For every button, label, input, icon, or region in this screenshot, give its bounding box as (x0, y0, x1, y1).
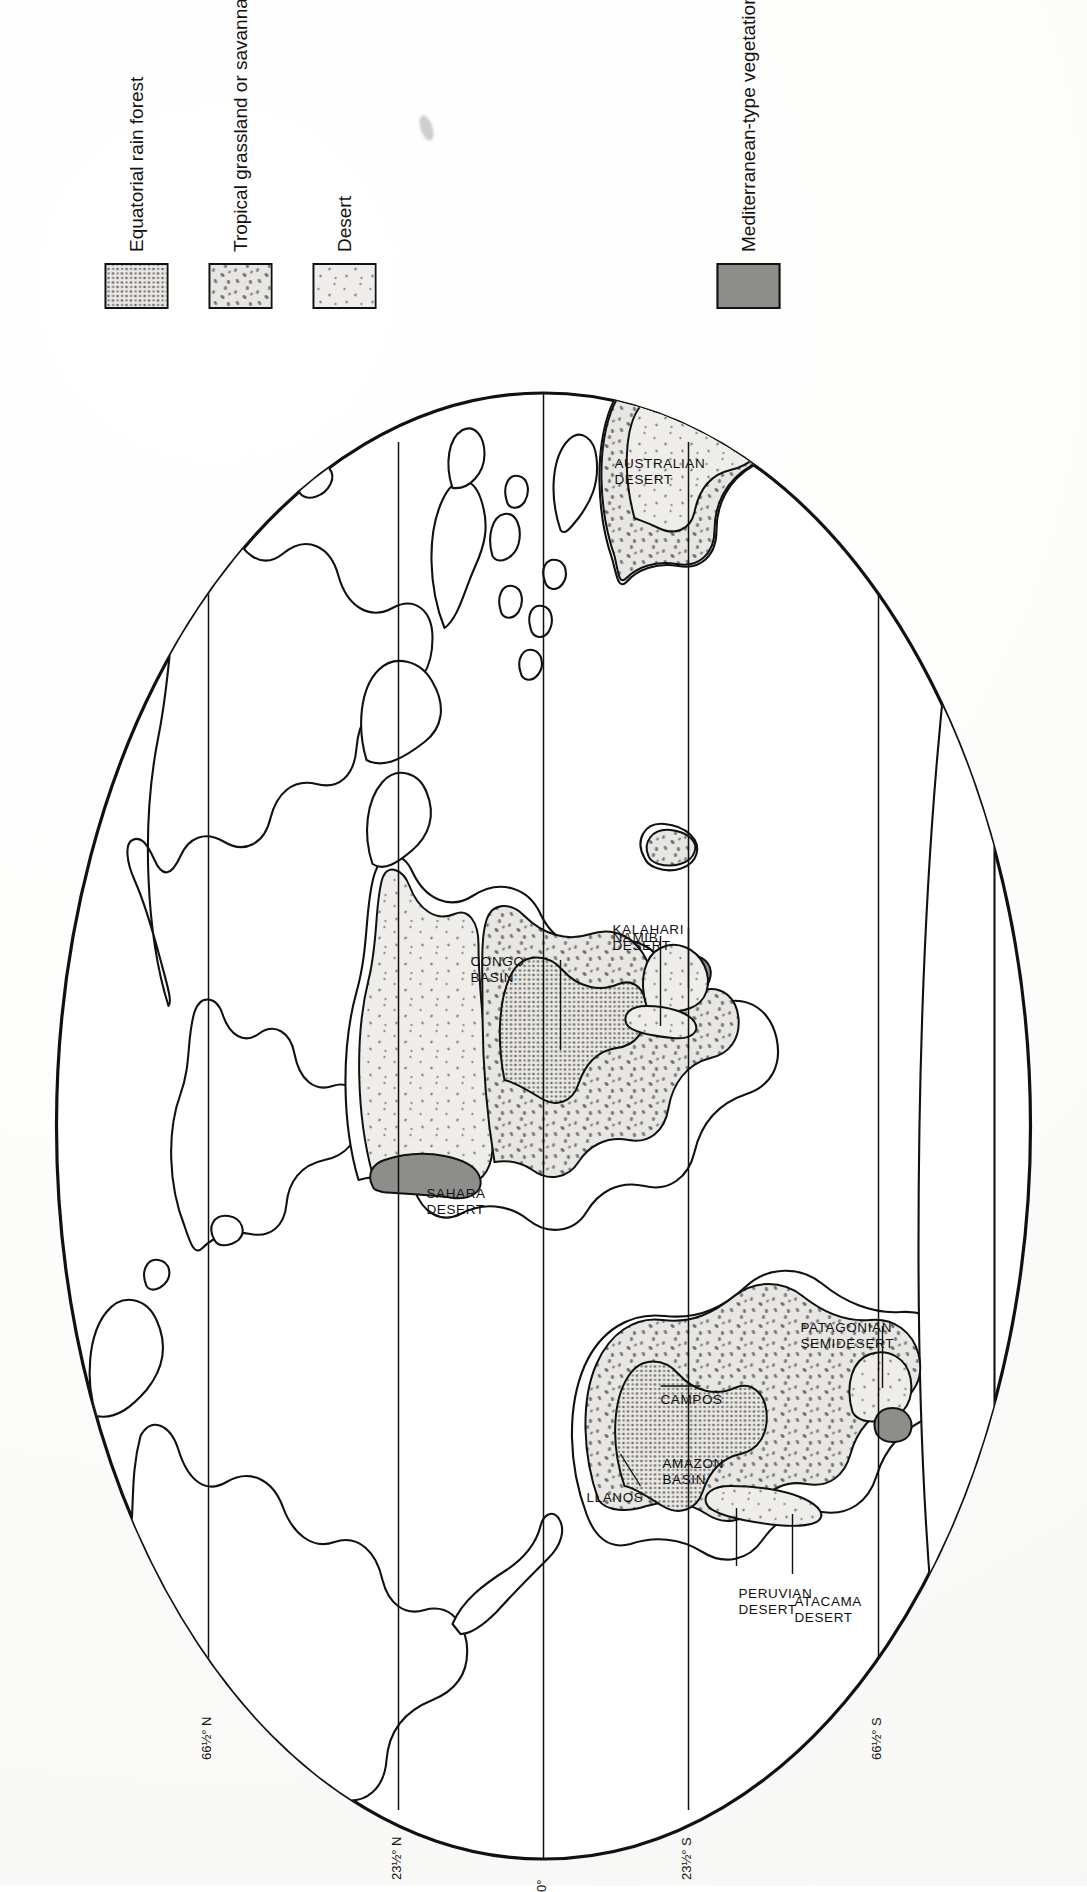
latitude-label-23s: 23½° S (678, 1837, 693, 1880)
latitude-label-equator: 0° (533, 1880, 548, 1892)
map-label-llanos: LLANOS (586, 1490, 643, 1505)
world-map-svg (0, 366, 1087, 1886)
map-label-llanos-line1: LLANOS (586, 1490, 643, 1505)
map-label-sahara-line2: DESERT (426, 1202, 485, 1218)
legend-item-tropical-grassland[interactable]: Tropical grassland or savanna (208, 0, 272, 309)
zone-kalahari-desert (642, 945, 707, 1012)
map-label-patagonian: PATAGONIAN SEMIDESERT (800, 1320, 894, 1352)
map-label-australian-line2: DESERT (614, 472, 705, 488)
zone-madagascar-savanna (646, 830, 695, 866)
legend-swatch-desert (312, 263, 376, 309)
map-label-congo-line1: CONGO (470, 954, 524, 970)
legend-swatch-mediterranean-vegetation (716, 263, 780, 309)
legend-item-mediterranean-vegetation[interactable]: Mediterranean-type vegetation (716, 0, 780, 309)
map-label-kalahari: KALAHARI DESERT (612, 922, 684, 954)
legend-swatch-tropical-grassland (208, 263, 272, 309)
legend-item-desert[interactable]: Desert (312, 196, 376, 309)
legend-label-tropical-grassland: Tropical grassland or savanna (229, 0, 251, 252)
latitude-label-66s: 66½° S (868, 1717, 883, 1760)
map-label-sahara: SAHARA DESERT (426, 1186, 485, 1218)
map-label-australian-line1: AUSTRALIAN (614, 456, 705, 472)
legend-item-equatorial-rain-forest[interactable]: Equatorial rain forest (104, 77, 168, 309)
map-label-amazon-line1: AMAZON (662, 1456, 723, 1472)
latitude-label-23n: 23½° N (388, 1836, 403, 1880)
legend-swatch-equatorial-rain-forest (104, 263, 168, 309)
zone-mediterranean-sw-australia (756, 396, 792, 431)
latitude-label-66n: 66½° N (198, 1716, 213, 1760)
map-label-australian: AUSTRALIAN DESERT (614, 456, 705, 488)
legend-label-equatorial-rain-forest: Equatorial rain forest (125, 77, 147, 252)
map-label-amazon-line2: BASIN (662, 1472, 723, 1488)
map-label-campos-line1: CAMPOS (660, 1392, 722, 1407)
map-label-atacama-line1: ATACAMA (794, 1594, 861, 1610)
map-label-congo: CONGO BASIN (470, 954, 524, 986)
page-smudge (416, 114, 435, 142)
map-label-atacama: ATACAMA DESERT (794, 1594, 861, 1626)
map-label-amazon: AMAZON BASIN (662, 1456, 723, 1488)
map-label-kalahari-line2: DESERT (612, 938, 684, 954)
map-label-campos: CAMPOS (660, 1392, 722, 1407)
world-map: 66½° N 23½° N 0° 23½° S 66½° S (0, 366, 1087, 1886)
map-label-sahara-line1: SAHARA (426, 1186, 485, 1202)
zone-mediterranean-chile (874, 1408, 911, 1442)
map-label-kalahari-line1: KALAHARI (612, 922, 684, 938)
legend: Equatorial rain forest (0, 0, 1087, 341)
map-label-atacama-line2: DESERT (794, 1610, 861, 1626)
map-label-congo-line2: BASIN (470, 970, 524, 986)
map-label-patagonian-line2: SEMIDESERT (800, 1336, 894, 1352)
map-label-patagonian-line1: PATAGONIAN (800, 1320, 894, 1336)
legend-label-desert: Desert (333, 196, 355, 252)
legend-label-mediterranean-vegetation: Mediterranean-type vegetation (737, 0, 759, 252)
